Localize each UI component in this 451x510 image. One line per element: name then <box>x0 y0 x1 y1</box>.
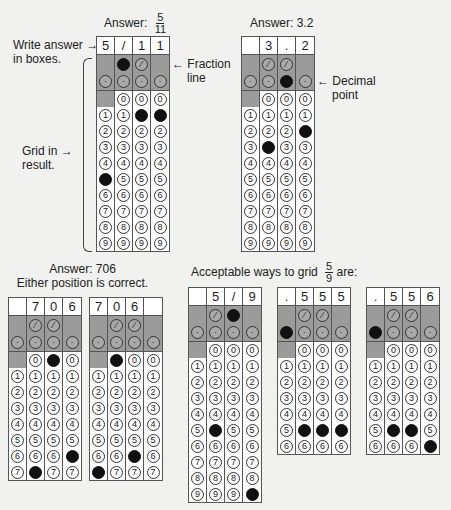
digit-bubble-1[interactable]: 1 <box>110 370 123 383</box>
digit-bubble-6[interactable]: 6 <box>280 189 293 202</box>
digit-bubble-4[interactable]: 4 <box>424 408 437 421</box>
digit-bubble-4[interactable]: 4 <box>11 418 24 431</box>
digit-bubble-3[interactable]: 3 <box>99 141 112 154</box>
slash-bubble[interactable]: ∕ <box>280 58 293 71</box>
digit-bubble-4[interactable]: 4 <box>47 418 60 431</box>
digit-bubble-0[interactable]: 0 <box>29 354 42 367</box>
digit-bubble-0[interactable]: 0 <box>209 344 222 357</box>
digit-bubble-1[interactable]: 1 <box>29 370 42 383</box>
decimal-bubble[interactable]: · <box>209 326 222 339</box>
answer-box[interactable]: 5 <box>207 288 224 306</box>
digit-bubble-7[interactable]: 7 <box>99 205 112 218</box>
digit-bubble-9[interactable]: 9 <box>117 237 130 250</box>
decimal-bubble[interactable]: · <box>369 326 382 339</box>
answer-box[interactable]: 6 <box>63 298 81 316</box>
digit-bubble-4[interactable]: 4 <box>117 157 130 170</box>
digit-bubble-1[interactable]: 1 <box>191 360 204 373</box>
digit-bubble-7[interactable]: 7 <box>135 205 148 218</box>
digit-bubble-0[interactable]: 0 <box>117 93 130 106</box>
digit-bubble-0[interactable]: 0 <box>387 344 400 357</box>
digit-bubble-6[interactable]: 6 <box>29 450 42 463</box>
digit-bubble-6[interactable]: 6 <box>147 450 160 463</box>
digit-bubble-1[interactable]: 1 <box>99 109 112 122</box>
digit-bubble-2[interactable]: 2 <box>11 386 24 399</box>
digit-bubble-5[interactable]: 5 <box>92 434 105 447</box>
digit-bubble-4[interactable]: 4 <box>147 418 160 431</box>
decimal-bubble[interactable]: · <box>147 336 160 349</box>
digit-bubble-1[interactable]: 1 <box>298 360 311 373</box>
digit-bubble-9[interactable]: 9 <box>262 237 275 250</box>
digit-bubble-9[interactable]: 9 <box>246 488 259 501</box>
slash-bubble[interactable]: ∕ <box>227 309 240 322</box>
digit-bubble-6[interactable]: 6 <box>316 440 329 453</box>
digit-bubble-0[interactable]: 0 <box>246 344 259 357</box>
digit-bubble-6[interactable]: 6 <box>209 440 222 453</box>
digit-bubble-7[interactable]: 7 <box>154 205 167 218</box>
digit-bubble-9[interactable]: 9 <box>191 488 204 501</box>
slash-bubble[interactable]: ∕ <box>209 309 222 322</box>
answer-box[interactable] <box>242 37 259 55</box>
answer-box[interactable] <box>144 298 162 316</box>
slash-bubble[interactable]: ∕ <box>128 319 141 332</box>
digit-bubble-0[interactable]: 0 <box>405 344 418 357</box>
decimal-bubble[interactable]: · <box>11 336 24 349</box>
decimal-bubble[interactable]: · <box>246 326 259 339</box>
digit-bubble-1[interactable]: 1 <box>227 360 240 373</box>
digit-bubble-4[interactable]: 4 <box>298 408 311 421</box>
digit-bubble-0[interactable]: 0 <box>424 344 437 357</box>
digit-bubble-6[interactable]: 6 <box>387 440 400 453</box>
decimal-bubble[interactable]: · <box>280 326 293 339</box>
digit-bubble-1[interactable]: 1 <box>66 370 79 383</box>
digit-bubble-7[interactable]: 7 <box>66 466 79 479</box>
digit-bubble-7[interactable]: 7 <box>92 466 105 479</box>
digit-bubble-0[interactable]: 0 <box>110 354 123 367</box>
digit-bubble-1[interactable]: 1 <box>92 370 105 383</box>
digit-bubble-1[interactable]: 1 <box>135 109 148 122</box>
digit-bubble-3[interactable]: 3 <box>246 392 259 405</box>
decimal-bubble[interactable]: · <box>262 75 275 88</box>
digit-bubble-7[interactable]: 7 <box>117 205 130 218</box>
digit-bubble-5[interactable]: 5 <box>110 434 123 447</box>
digit-bubble-3[interactable]: 3 <box>244 141 257 154</box>
digit-bubble-3[interactable]: 3 <box>92 402 105 415</box>
digit-bubble-4[interactable]: 4 <box>66 418 79 431</box>
decimal-bubble[interactable]: · <box>117 75 130 88</box>
digit-bubble-6[interactable]: 6 <box>246 440 259 453</box>
digit-bubble-1[interactable]: 1 <box>154 109 167 122</box>
digit-bubble-6[interactable]: 6 <box>424 440 437 453</box>
digit-bubble-4[interactable]: 4 <box>246 408 259 421</box>
decimal-bubble[interactable]: · <box>154 75 167 88</box>
digit-bubble-6[interactable]: 6 <box>47 450 60 463</box>
digit-bubble-7[interactable]: 7 <box>110 466 123 479</box>
digit-bubble-6[interactable]: 6 <box>11 450 24 463</box>
decimal-bubble[interactable]: · <box>29 336 42 349</box>
digit-bubble-3[interactable]: 3 <box>227 392 240 405</box>
decimal-bubble[interactable]: · <box>66 336 79 349</box>
decimal-bubble[interactable]: · <box>227 326 240 339</box>
digit-bubble-4[interactable]: 4 <box>387 408 400 421</box>
digit-bubble-5[interactable]: 5 <box>316 424 329 437</box>
answer-box[interactable]: 6 <box>421 288 439 306</box>
digit-bubble-6[interactable]: 6 <box>128 450 141 463</box>
decimal-bubble[interactable]: · <box>99 75 112 88</box>
digit-bubble-0[interactable]: 0 <box>154 93 167 106</box>
digit-bubble-8[interactable]: 8 <box>246 472 259 485</box>
decimal-bubble[interactable]: · <box>299 75 312 88</box>
digit-bubble-3[interactable]: 3 <box>335 392 348 405</box>
digit-bubble-3[interactable]: 3 <box>424 392 437 405</box>
digit-bubble-5[interactable]: 5 <box>29 434 42 447</box>
digit-bubble-3[interactable]: 3 <box>135 141 148 154</box>
digit-bubble-1[interactable]: 1 <box>316 360 329 373</box>
digit-bubble-1[interactable]: 1 <box>128 370 141 383</box>
digit-bubble-1[interactable]: 1 <box>246 360 259 373</box>
digit-bubble-4[interactable]: 4 <box>335 408 348 421</box>
digit-bubble-8[interactable]: 8 <box>191 472 204 485</box>
digit-bubble-1[interactable]: 1 <box>147 370 160 383</box>
answer-box[interactable]: 5 <box>385 288 402 306</box>
digit-bubble-6[interactable]: 6 <box>191 440 204 453</box>
digit-bubble-7[interactable]: 7 <box>299 205 312 218</box>
digit-bubble-9[interactable]: 9 <box>227 488 240 501</box>
digit-bubble-9[interactable]: 9 <box>154 237 167 250</box>
digit-bubble-5[interactable]: 5 <box>405 424 418 437</box>
digit-bubble-2[interactable]: 2 <box>66 386 79 399</box>
